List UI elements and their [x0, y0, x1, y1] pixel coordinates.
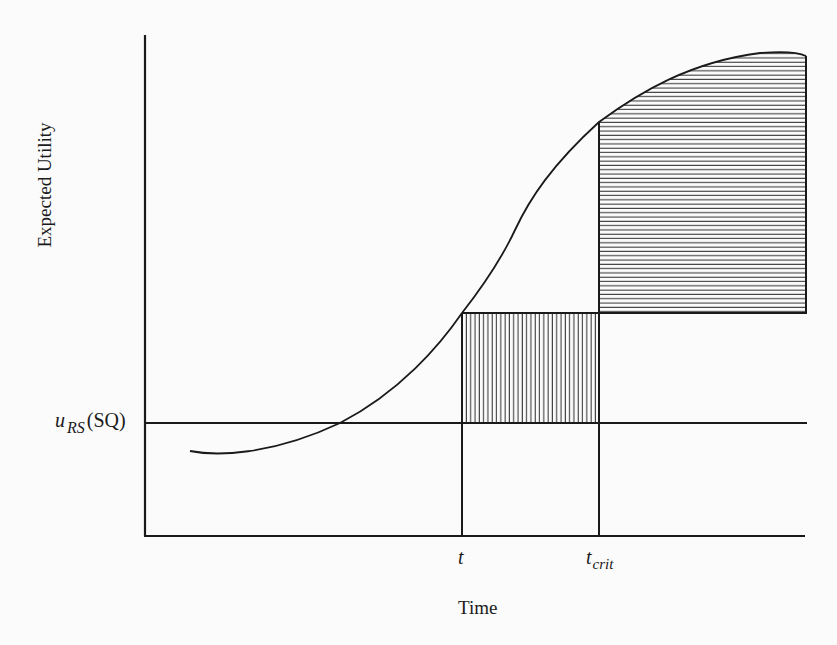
expected-utility-diagram: Expected Utility uRS(SQ) t tcrit Time: [0, 0, 837, 645]
tcrit-subscript: crit: [593, 556, 614, 572]
x-axis-label: Time: [458, 597, 497, 619]
horizontal-hatch-region: [599, 40, 806, 314]
diagram-canvas: [0, 0, 837, 645]
marker-label-tcrit: tcrit: [586, 546, 613, 569]
y-axis-label: Expected Utility: [34, 122, 56, 247]
vertical-hatch-region: [462, 313, 599, 423]
reference-line-label: uRS(SQ): [55, 409, 126, 432]
marker-label-t: t: [458, 546, 464, 569]
urs-suffix: (SQ): [87, 409, 126, 431]
urs-subscript: RS: [67, 419, 85, 436]
urs-main: u: [55, 409, 65, 431]
tcrit-main: t: [586, 546, 592, 568]
